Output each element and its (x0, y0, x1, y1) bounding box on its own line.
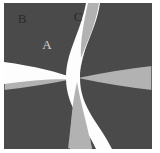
label-c: C (74, 10, 83, 23)
label-b: B (18, 12, 27, 25)
figure-container: A B C (0, 0, 160, 153)
label-a: A (42, 38, 51, 51)
